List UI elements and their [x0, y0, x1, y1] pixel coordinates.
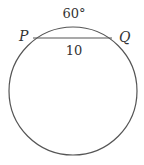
point-q-label: Q: [119, 29, 131, 45]
chord-length-label: 10: [66, 43, 83, 58]
point-p-label: P: [18, 28, 29, 44]
circle-diagram: 60° 10 P Q: [0, 0, 144, 165]
arc-angle-label: 60°: [62, 6, 85, 21]
